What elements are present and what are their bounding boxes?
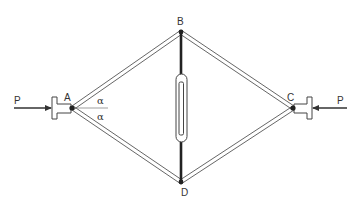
label-angle-lower: α — [97, 111, 104, 122]
joint-d — [179, 180, 184, 185]
label-node-d: D — [181, 187, 188, 198]
diagram-canvas: P P A B C D α α — [0, 0, 364, 203]
label-angle-upper: α — [97, 95, 104, 106]
label-node-a: A — [64, 92, 71, 103]
turnbuckle — [176, 74, 187, 142]
label-p-right: P — [337, 95, 344, 106]
label-node-c: C — [287, 92, 294, 103]
joint-b — [179, 30, 184, 35]
member-cd — [180, 106, 294, 184]
member-ab — [72, 30, 182, 110]
joint-a — [69, 105, 74, 110]
label-p-left: P — [14, 95, 21, 106]
member-ad — [72, 106, 182, 184]
label-node-b: B — [177, 16, 184, 27]
joint-c — [290, 105, 295, 110]
member-bc — [180, 30, 294, 110]
right-loading-plate — [294, 97, 312, 119]
